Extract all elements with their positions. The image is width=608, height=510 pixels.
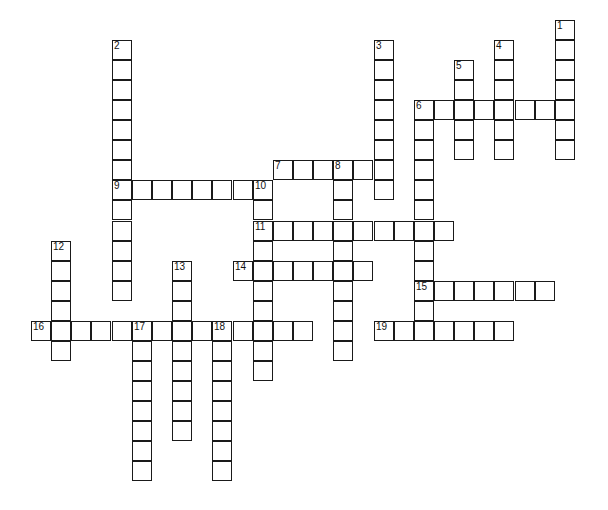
crossword-cell[interactable]: 18 [212, 321, 232, 341]
crossword-cell[interactable]: 9 [112, 180, 132, 200]
crossword-cell[interactable] [374, 80, 394, 100]
crossword-cell[interactable] [494, 60, 514, 80]
crossword-cell[interactable] [333, 321, 353, 341]
crossword-cell[interactable] [152, 321, 172, 341]
crossword-cell[interactable] [555, 60, 575, 80]
crossword-cell[interactable] [374, 120, 394, 140]
crossword-cell[interactable] [132, 421, 152, 441]
crossword-cell[interactable] [172, 281, 192, 301]
crossword-cell[interactable] [293, 221, 313, 241]
crossword-cell[interactable] [293, 321, 313, 341]
crossword-cell[interactable] [535, 281, 555, 301]
crossword-cell[interactable] [132, 361, 152, 381]
crossword-cell[interactable]: 13 [172, 261, 192, 281]
crossword-cell[interactable] [333, 281, 353, 301]
crossword-cell[interactable] [253, 200, 273, 220]
crossword-cell[interactable] [212, 421, 232, 441]
crossword-cell[interactable] [172, 381, 192, 401]
crossword-cell[interactable] [313, 261, 333, 281]
crossword-cell[interactable] [414, 200, 434, 220]
crossword-cell[interactable] [112, 120, 132, 140]
crossword-cell[interactable]: 10 [253, 180, 273, 200]
crossword-cell[interactable] [333, 241, 353, 261]
crossword-cell[interactable] [555, 120, 575, 140]
crossword-cell[interactable]: 6 [414, 100, 434, 120]
crossword-cell[interactable] [112, 80, 132, 100]
crossword-cell[interactable] [51, 321, 71, 341]
crossword-cell[interactable] [212, 180, 232, 200]
crossword-cell[interactable] [293, 160, 313, 180]
crossword-cell[interactable] [434, 321, 454, 341]
crossword-cell[interactable] [112, 281, 132, 301]
crossword-cell[interactable]: 19 [374, 321, 394, 341]
crossword-cell[interactable] [212, 341, 232, 361]
crossword-cell[interactable] [132, 180, 152, 200]
crossword-cell[interactable] [253, 321, 273, 341]
crossword-cell[interactable]: 2 [112, 40, 132, 60]
crossword-cell[interactable] [494, 281, 514, 301]
crossword-cell[interactable] [434, 221, 454, 241]
crossword-cell[interactable] [132, 341, 152, 361]
crossword-cell[interactable] [273, 221, 293, 241]
crossword-cell[interactable] [333, 180, 353, 200]
crossword-cell[interactable] [515, 100, 535, 120]
crossword-cell[interactable] [253, 281, 273, 301]
crossword-cell[interactable] [494, 140, 514, 160]
crossword-cell[interactable] [273, 261, 293, 281]
crossword-cell[interactable] [374, 100, 394, 120]
crossword-cell[interactable] [192, 321, 212, 341]
crossword-cell[interactable] [112, 200, 132, 220]
crossword-cell[interactable] [172, 301, 192, 321]
crossword-cell[interactable] [374, 221, 394, 241]
crossword-cell[interactable] [494, 100, 514, 120]
crossword-cell[interactable] [112, 321, 132, 341]
crossword-cell[interactable] [313, 160, 333, 180]
crossword-cell[interactable] [333, 301, 353, 321]
crossword-cell[interactable] [374, 180, 394, 200]
crossword-cell[interactable]: 14 [233, 261, 253, 281]
crossword-cell[interactable] [555, 100, 575, 120]
crossword-cell[interactable] [333, 221, 353, 241]
crossword-cell[interactable] [132, 441, 152, 461]
crossword-cell[interactable] [112, 100, 132, 120]
crossword-cell[interactable] [51, 341, 71, 361]
crossword-cell[interactable] [374, 60, 394, 80]
crossword-cell[interactable] [253, 341, 273, 361]
crossword-cell[interactable] [112, 140, 132, 160]
crossword-cell[interactable] [414, 261, 434, 281]
crossword-cell[interactable] [253, 301, 273, 321]
crossword-cell[interactable] [535, 100, 555, 120]
crossword-cell[interactable]: 3 [374, 40, 394, 60]
crossword-cell[interactable] [454, 321, 474, 341]
crossword-cell[interactable] [233, 321, 253, 341]
crossword-cell[interactable] [212, 401, 232, 421]
crossword-cell[interactable] [394, 221, 414, 241]
crossword-cell[interactable] [353, 261, 373, 281]
crossword-cell[interactable] [112, 241, 132, 261]
crossword-cell[interactable] [515, 281, 535, 301]
crossword-cell[interactable] [414, 160, 434, 180]
crossword-cell[interactable] [172, 401, 192, 421]
crossword-cell[interactable] [474, 281, 494, 301]
crossword-cell[interactable]: 16 [31, 321, 51, 341]
crossword-cell[interactable] [192, 180, 212, 200]
crossword-cell[interactable] [132, 461, 152, 481]
crossword-cell[interactable]: 11 [253, 221, 273, 241]
crossword-cell[interactable] [394, 321, 414, 341]
crossword-cell[interactable] [91, 321, 111, 341]
crossword-cell[interactable] [434, 281, 454, 301]
crossword-cell[interactable] [414, 321, 434, 341]
crossword-cell[interactable] [333, 261, 353, 281]
crossword-cell[interactable] [172, 321, 192, 341]
crossword-cell[interactable] [273, 321, 293, 341]
crossword-cell[interactable]: 8 [333, 160, 353, 180]
crossword-cell[interactable] [253, 361, 273, 381]
crossword-cell[interactable] [414, 241, 434, 261]
crossword-cell[interactable] [212, 461, 232, 481]
crossword-cell[interactable] [555, 140, 575, 160]
crossword-cell[interactable] [374, 160, 394, 180]
crossword-cell[interactable] [434, 100, 454, 120]
crossword-cell[interactable] [374, 140, 394, 160]
crossword-cell[interactable] [333, 341, 353, 361]
crossword-cell[interactable] [71, 321, 91, 341]
